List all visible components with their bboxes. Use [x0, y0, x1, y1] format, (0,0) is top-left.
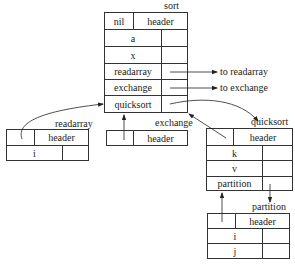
- quicksort-header-ptr: [206, 128, 234, 146]
- readarray-title: readarray: [55, 119, 93, 129]
- to-readarray-label: to readarray: [220, 67, 268, 77]
- quicksort-entry-v-ptr: [262, 160, 293, 177]
- sort-entry-readarray: readarray: [104, 63, 162, 80]
- sort-title: sort: [164, 1, 179, 11]
- sort-entry-x: x: [104, 46, 162, 64]
- quicksort-entry-v: v: [206, 160, 263, 177]
- sort-entry-a-ptr: [161, 29, 188, 47]
- exchange-title: exchange: [155, 118, 193, 128]
- readarray-entry-i: i: [6, 145, 63, 161]
- sort-entry-quicksort-ptr: [161, 95, 188, 113]
- quicksort-entry-k: k: [206, 145, 263, 161]
- sort-entry-quicksort: quicksort: [104, 95, 162, 113]
- sort-entry-exchange-ptr: [161, 79, 188, 96]
- partition-entry-i: i: [207, 228, 263, 244]
- partition-header-ptr: [207, 213, 236, 229]
- to-exchange-label: to exchange: [220, 83, 268, 93]
- partition-entry-j: j: [207, 243, 263, 259]
- sort-header: header: [133, 12, 188, 30]
- sort-entry-readarray-ptr: [161, 63, 188, 80]
- quicksort-title: quicksort: [251, 117, 288, 127]
- readarray-entry-i-ptr: [62, 145, 89, 161]
- partition-entry-i-ptr: [262, 228, 290, 244]
- exchange-header-ptr: [106, 130, 134, 146]
- partition-title: partition: [252, 202, 286, 212]
- quicksort-entry-partition-ptr: [262, 176, 293, 191]
- partition-entry-j-ptr: [262, 243, 290, 259]
- quicksort-header: header: [233, 128, 293, 146]
- quicksort-entry-k-ptr: [262, 145, 293, 161]
- sort-entry-a: a: [104, 29, 162, 47]
- quicksort-entry-partition: partition: [206, 176, 263, 191]
- readarray-header-ptr: [6, 129, 35, 146]
- exchange-header: header: [133, 130, 188, 146]
- sort-entry-exchange: exchange: [104, 79, 162, 96]
- sort-header-nil: nil: [104, 12, 134, 30]
- partition-header: header: [235, 213, 290, 229]
- readarray-header: header: [34, 129, 89, 146]
- sort-entry-x-ptr: [161, 46, 188, 64]
